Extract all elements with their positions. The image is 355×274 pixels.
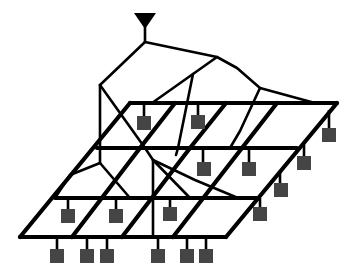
network-diagram — [0, 0, 355, 274]
node-r3-5 — [180, 237, 194, 263]
node-r0-3 — [322, 110, 336, 142]
node-r1-1 — [197, 148, 211, 176]
node-r0-2 — [191, 103, 205, 129]
node-r3-2 — [80, 237, 94, 263]
node-r2-1 — [61, 198, 75, 223]
node-r2-2 — [109, 198, 123, 223]
node-r3-3 — [100, 237, 114, 263]
node-r2-3 — [163, 198, 177, 221]
node-r1-2 — [242, 148, 256, 176]
node-r3-1 — [50, 237, 64, 263]
root-antenna-icon — [134, 13, 156, 42]
node-r3-6 — [199, 237, 213, 263]
node-r3-4 — [151, 237, 165, 263]
node-r0-1 — [137, 103, 151, 130]
